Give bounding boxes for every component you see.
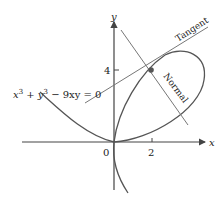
equation-label: x3 + y3 − 9xy = 0: [13, 88, 101, 100]
normal-label: Normal: [161, 71, 190, 105]
origin-label: 0: [103, 147, 109, 158]
normal-line: [121, 30, 188, 125]
folium-diagram: y x 0 2 4 Tangent Normal x3 + y3 − 9xy =…: [0, 0, 220, 201]
tangency-point: [148, 67, 154, 73]
x-tick-label-2: 2: [148, 147, 154, 158]
x-axis-label: x: [209, 137, 215, 148]
y-tick-label-4: 4: [104, 65, 110, 76]
y-axis-label: y: [110, 11, 117, 22]
folium-curve: [40, 51, 204, 193]
diagram-svg: y x 0 2 4 Tangent Normal x3 + y3 − 9xy =…: [0, 0, 220, 201]
